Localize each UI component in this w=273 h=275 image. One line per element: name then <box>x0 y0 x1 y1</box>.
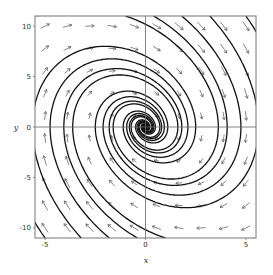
x-tick-label: 5 <box>244 241 248 249</box>
field-arrow-icon <box>43 134 46 143</box>
field-arrow-icon <box>198 45 205 53</box>
field-arrow-icon <box>86 224 94 232</box>
field-arrow-icon <box>243 180 248 187</box>
streamline <box>246 16 265 48</box>
field-arrow-icon <box>43 156 47 166</box>
field-arrow-icon <box>220 204 227 208</box>
field-arrow-icon <box>109 180 114 186</box>
field-arrow-icon <box>155 92 159 96</box>
field-arrow-icon <box>64 201 70 210</box>
field-arrow-icon <box>41 24 50 29</box>
field-arrow-icon <box>243 22 249 31</box>
streamline <box>26 206 45 238</box>
field-arrow-icon <box>109 69 115 72</box>
field-arrow-icon <box>65 68 71 73</box>
field-arrow-icon <box>66 112 69 119</box>
y-axis-label: y <box>13 123 19 132</box>
field-arrow-icon <box>132 159 136 163</box>
field-arrow-icon <box>176 45 183 51</box>
field-arrow-icon <box>42 223 48 232</box>
field-arrow-icon <box>108 25 117 28</box>
streamline <box>220 238 255 248</box>
field-arrow-icon <box>244 134 247 143</box>
y-axis-ticks: -10-50510 <box>20 23 35 233</box>
field-arrow-icon <box>222 135 225 142</box>
field-arrow-icon <box>131 203 138 208</box>
field-arrow-icon <box>87 69 93 72</box>
field-arrow-icon <box>198 182 204 185</box>
field-arrow-icon <box>153 46 160 51</box>
field-arrow-icon <box>64 46 71 50</box>
field-arrow-icon <box>200 113 203 120</box>
field-arrow-icon <box>44 112 47 121</box>
field-arrow-icon <box>198 22 206 30</box>
field-arrow-icon <box>86 202 93 210</box>
field-arrow-icon <box>176 68 181 74</box>
field-arrow-icon <box>243 44 248 54</box>
field-arrow-icon <box>222 158 226 164</box>
field-arrow-icon <box>244 157 248 165</box>
field-arrow-icon <box>197 226 206 229</box>
field-arrow-icon <box>219 227 228 230</box>
field-arrow-icon <box>221 66 226 75</box>
field-arrow-icon <box>200 135 203 141</box>
x-tick-label: -5 <box>42 241 49 249</box>
field-arrow-icon <box>88 91 92 96</box>
field-arrow-icon <box>88 113 91 119</box>
field-arrow-icon <box>175 23 183 30</box>
y-tick-label: 5 <box>27 73 31 81</box>
y-tick-label: 0 <box>27 124 31 132</box>
field-arrow-icon <box>65 179 70 188</box>
field-arrow-icon <box>245 88 249 98</box>
x-axis-label: x <box>144 256 149 265</box>
field-arrow-icon <box>66 90 70 96</box>
y-tick-label: -5 <box>24 174 31 182</box>
field-arrow-icon <box>43 68 48 75</box>
phase-portrait-chart: -505 -10-50510 x y <box>0 0 273 275</box>
field-arrow-icon <box>108 224 116 231</box>
field-arrow-icon <box>130 24 139 28</box>
field-arrow-icon <box>221 44 227 53</box>
field-arrow-icon <box>242 203 249 209</box>
field-arrow-icon <box>42 46 49 52</box>
field-arrow-icon <box>85 24 94 27</box>
field-arrow-icon <box>88 135 91 142</box>
field-arrow-icon <box>109 202 116 208</box>
x-tick-label: 0 <box>143 241 147 249</box>
field-arrow-icon <box>175 226 184 229</box>
y-tick-label: 10 <box>22 23 31 31</box>
field-arrow-icon <box>221 181 227 186</box>
field-arrow-icon <box>245 111 248 120</box>
field-arrow-icon <box>200 90 204 97</box>
field-arrow-icon <box>152 226 161 230</box>
field-arrow-icon <box>199 158 203 163</box>
field-arrow-icon <box>66 134 69 142</box>
field-arrow-icon <box>242 226 251 231</box>
field-arrow-icon <box>222 112 225 120</box>
field-arrow-icon <box>44 90 48 98</box>
field-arrow-icon <box>176 182 182 185</box>
field-arrow-icon <box>63 24 72 27</box>
y-tick-label: -10 <box>20 224 31 232</box>
x-axis-ticks: -505 <box>42 238 249 249</box>
streamline <box>37 6 72 16</box>
field-arrow-icon <box>88 157 92 164</box>
field-arrow-icon <box>42 201 47 211</box>
